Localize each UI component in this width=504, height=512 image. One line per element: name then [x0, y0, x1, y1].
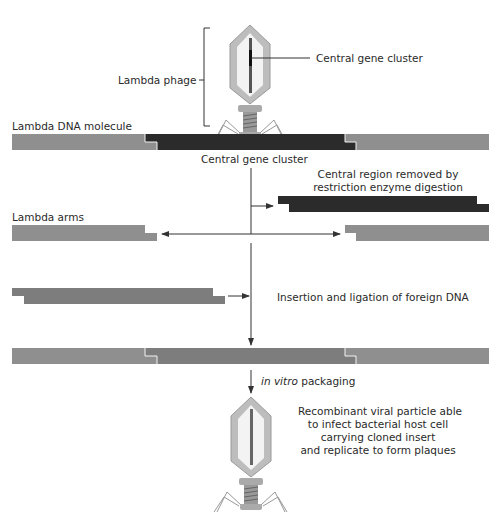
insertion-ligation-label: Insertion and ligation of foreign DNA: [277, 291, 469, 304]
lambda-dna-molecule-label: Lambda DNA molecule: [12, 120, 132, 133]
phage-bracket: [199, 28, 210, 126]
central-gene-cluster-mid-label: Central gene cluster: [201, 153, 308, 166]
recombinant-phage-icon: [214, 397, 287, 512]
in-vitro-packaging-label: in vitro packaging: [261, 375, 355, 388]
recombinant-particle-label: Recombinant viral particle able to infec…: [298, 405, 458, 457]
lambda-phage-label: Lambda phage: [118, 74, 197, 87]
lambda-arms-label: Lambda arms: [12, 211, 84, 224]
lambda-arm-left: [12, 225, 157, 241]
foreign-dna-insert: [12, 288, 225, 304]
central-gene-cluster-top-label: Central gene cluster: [316, 52, 423, 65]
recombinant-dna-molecule: [12, 348, 489, 364]
lambda-phage-icon: [216, 25, 284, 138]
central-region-removed: [278, 196, 489, 212]
central-region-removed-label: Central region removed by restriction en…: [300, 168, 476, 194]
lambda-dna-molecule: [12, 134, 489, 150]
lambda-arm-right: [345, 225, 489, 241]
